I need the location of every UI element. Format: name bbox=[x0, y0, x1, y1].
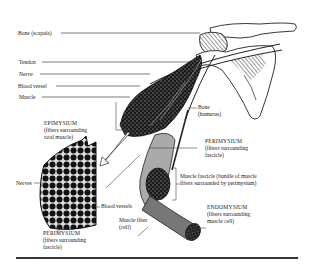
label-perimysium-left-desc-1: (fibers surrounding bbox=[43, 237, 86, 243]
label-muscle-fiber-2: (cell) bbox=[119, 224, 131, 230]
label-nerves: Nerves bbox=[16, 180, 32, 186]
label-perimysium-left-desc-2: fascicle) bbox=[43, 244, 62, 250]
label-perimysium-left-title: PERIMYSIUM bbox=[43, 230, 80, 236]
label-perimysium-right-desc-2: fascicle) bbox=[205, 152, 224, 158]
bottom-rule-divider bbox=[16, 257, 298, 259]
label-bone-humerus-paren: (humerus) bbox=[198, 111, 221, 117]
arrow-to-cross-section bbox=[100, 132, 130, 166]
label-bone-scapula: Bone (scapula) bbox=[18, 30, 52, 36]
fascicle-bracket bbox=[172, 168, 176, 200]
label-muscle-fascicle-2: fibers surrounded by perimysium) bbox=[180, 180, 256, 186]
muscle-fiber bbox=[142, 196, 204, 243]
label-epimysium-desc-2: total muscle) bbox=[44, 134, 73, 140]
scapula-bone bbox=[196, 23, 296, 119]
muscle-fascicle bbox=[140, 133, 175, 210]
label-perimysium-right-desc-1: (fibers surrounding bbox=[205, 145, 248, 151]
muscle-cross-section bbox=[40, 136, 96, 229]
label-endomysium-title: ENDOMYSIUM bbox=[207, 204, 248, 210]
label-perimysium-right-title: PERIMYSIUM bbox=[205, 138, 242, 144]
label-blood-vessels: Blood vessels bbox=[101, 203, 132, 209]
label-muscle: Muscle bbox=[19, 94, 35, 100]
label-bone-humerus: Bone bbox=[198, 104, 210, 110]
label-nerve: Nerve bbox=[19, 71, 33, 77]
label-epimysium-desc-1: (fibers surrounding bbox=[44, 127, 87, 133]
label-endomysium-desc-1: (fibers surrounding bbox=[207, 211, 250, 217]
label-blood-vessel: Blood vessel bbox=[18, 83, 47, 89]
label-muscle-fascicle-1: Muscle fascicle (bundle of muscle bbox=[180, 173, 257, 179]
label-tendon: Tendon bbox=[19, 59, 36, 65]
label-epimysium-title: EPIMYSIUM bbox=[44, 120, 77, 126]
label-muscle-fiber-1: Muscle fiber bbox=[119, 217, 147, 223]
muscle-belly bbox=[120, 55, 202, 136]
label-endomysium-desc-2: muscle cell) bbox=[207, 218, 234, 224]
